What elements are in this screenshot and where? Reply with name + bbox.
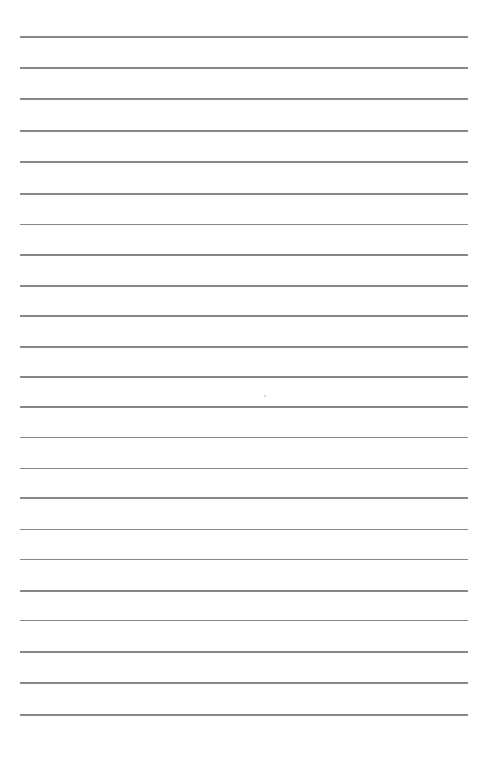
ruled-line (20, 620, 468, 621)
ruled-line (20, 254, 468, 255)
ruled-line (20, 714, 468, 715)
ruled-line (20, 98, 468, 99)
ruled-line (20, 346, 468, 347)
ruled-line (20, 193, 468, 194)
ruled-line (20, 437, 468, 438)
ruled-line (20, 406, 468, 407)
ruled-line (20, 376, 468, 377)
ruled-line (20, 161, 468, 162)
ruled-line (20, 682, 468, 683)
ruled-line (20, 529, 468, 530)
ruled-line (20, 590, 468, 591)
ruled-line (20, 285, 468, 286)
ruled-line (20, 224, 468, 225)
ruled-line (20, 497, 468, 498)
scan-speck (264, 395, 266, 397)
ruled-line (20, 559, 468, 560)
ruled-line (20, 67, 468, 68)
ruled-line (20, 36, 468, 37)
ruled-line (20, 651, 468, 652)
ruled-line (20, 315, 468, 316)
ruled-line (20, 130, 468, 131)
ruled-line (20, 468, 468, 469)
lined-paper-page (0, 0, 482, 772)
